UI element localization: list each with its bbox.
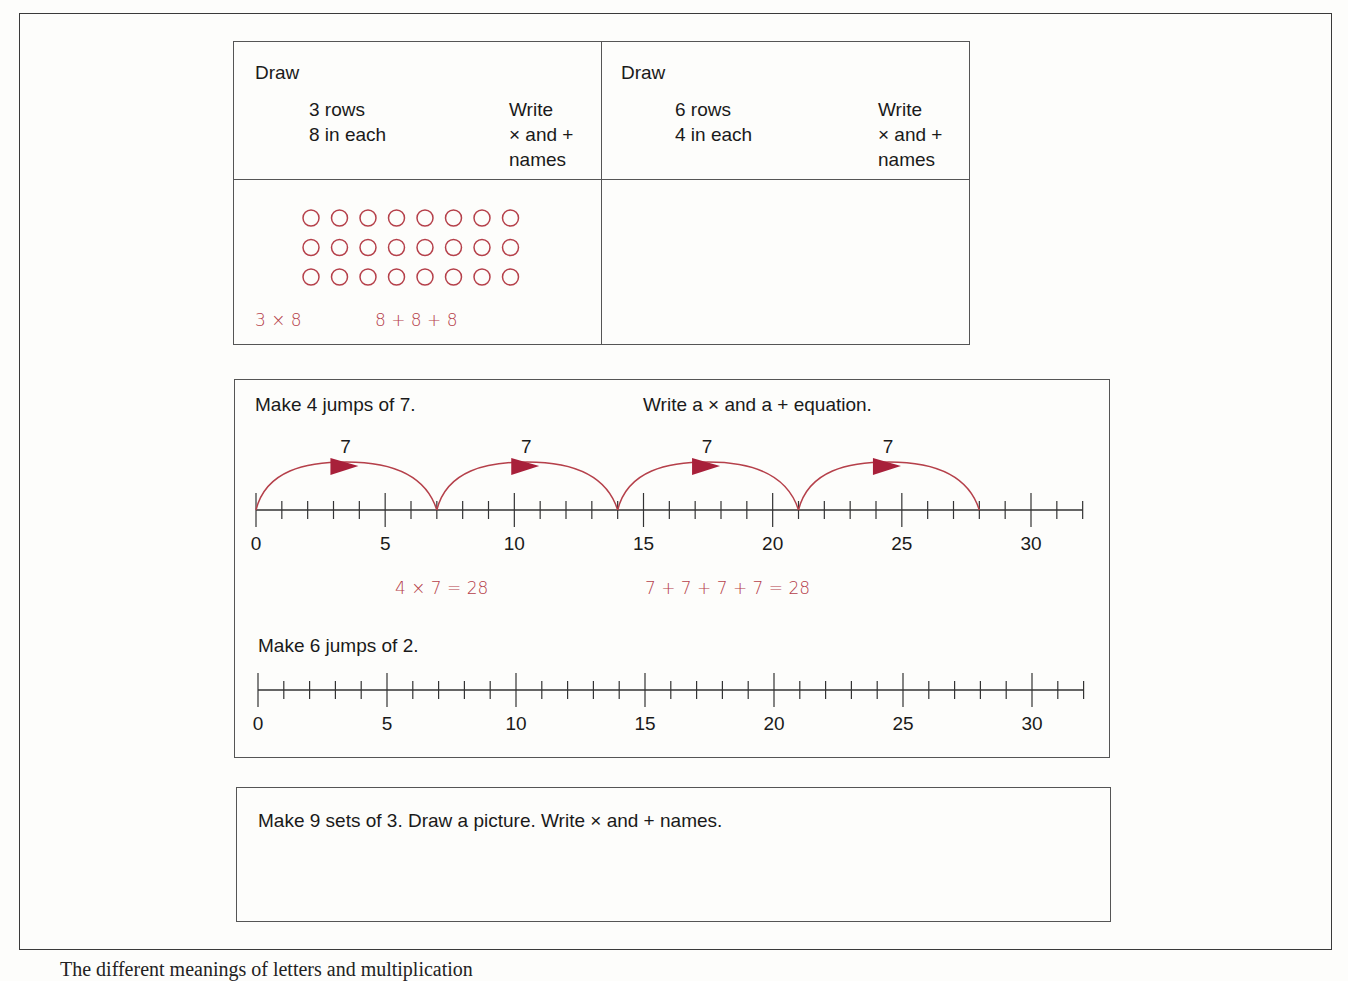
svg-text:5: 5 xyxy=(382,713,393,734)
svg-text:20: 20 xyxy=(763,713,784,734)
svg-text:30: 30 xyxy=(1021,713,1042,734)
figure-caption: The different meanings of letters and mu… xyxy=(60,958,473,981)
svg-text:25: 25 xyxy=(892,713,913,734)
svg-text:10: 10 xyxy=(505,713,526,734)
svg-text:15: 15 xyxy=(634,713,655,734)
sets-prompt: Make 9 sets of 3. Draw a picture. Write … xyxy=(258,808,722,833)
svg-text:0: 0 xyxy=(253,713,264,734)
